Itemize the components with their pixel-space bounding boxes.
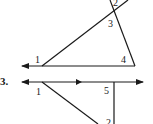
bottom-diagonal-line [42, 82, 98, 124]
problem-number: 3. [0, 75, 9, 87]
angle-label-2-bottom: 2 [106, 117, 111, 124]
angle-label-1-bottom: 1 [36, 86, 41, 97]
top-figure: 2 3 1 4 [22, 0, 135, 66]
bottom-figure: 1 5 2 [22, 79, 143, 124]
angle-label-4: 4 [121, 54, 126, 65]
geometry-diagram: 2 3 1 4 3. 1 5 2 [0, 0, 153, 124]
angle-label-3: 3 [108, 18, 113, 29]
angle-label-2: 2 [113, 0, 118, 8]
angle-label-5: 5 [104, 85, 109, 96]
top-transversal-line [42, 0, 128, 66]
angle-label-1: 1 [35, 54, 40, 65]
parallel-arrow-mark [76, 79, 82, 85]
